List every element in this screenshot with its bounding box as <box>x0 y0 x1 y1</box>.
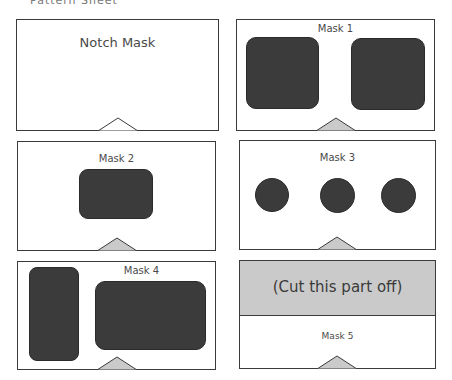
notch-triangle <box>317 355 357 369</box>
panel-label: Mask 1 <box>237 23 434 34</box>
mask-cutout-center <box>79 169 153 219</box>
cut-off-label: (Cut this part off) <box>240 278 435 296</box>
notch-triangle <box>316 117 356 131</box>
page-heading-cut-off: Pattern Sheet <box>30 0 118 7</box>
mask-circle-center <box>320 178 355 213</box>
panel-mask-3: Mask 3 <box>239 140 436 250</box>
cut-off-area: (Cut this part off) <box>240 261 435 316</box>
panel-mask-5: (Cut this part off) Mask 5 <box>239 260 436 369</box>
panel-label: Notch Mask <box>17 35 218 50</box>
notch-triangle <box>317 236 357 250</box>
panel-label: Mask 2 <box>18 153 215 164</box>
mask-cutout-left <box>246 37 319 109</box>
notch-triangle <box>97 356 137 370</box>
panel-label: Mask 3 <box>240 152 435 163</box>
mask-cutout-right <box>351 38 425 110</box>
mask-circle-left <box>255 178 289 212</box>
panel-mask-2: Mask 2 <box>17 141 216 251</box>
notch-triangle <box>97 237 137 251</box>
panel-mask-1: Mask 1 <box>236 19 435 131</box>
mask-circle-right <box>381 178 416 213</box>
panel-label: Mask 5 <box>240 331 435 341</box>
panel-mask-4: Mask 4 <box>17 261 216 370</box>
notch-triangle-outline <box>98 117 138 131</box>
mask-cutout-tall <box>29 267 79 361</box>
panel-notch-mask: Notch Mask <box>16 19 219 131</box>
mask-cutout-wide <box>95 281 206 350</box>
